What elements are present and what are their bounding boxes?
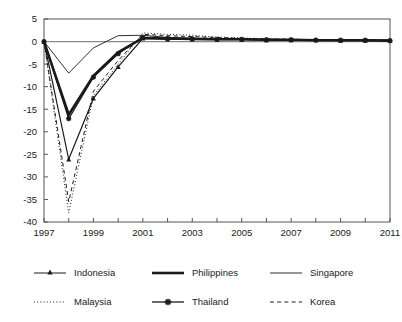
x-axis-tick-labels: 19971999200120032005200720092011 (33, 227, 400, 238)
chart-figure: 50-5-10-15-20-25-30-35-40 19971999200120… (0, 0, 402, 322)
y-tick-label: -15 (23, 104, 37, 115)
x-tick-label: 1997 (33, 227, 54, 238)
legend-item-philippines[interactable]: Philippines (151, 258, 269, 287)
plot-area: 50-5-10-15-20-25-30-35-40 19971999200120… (0, 0, 402, 248)
series-korea (44, 34, 390, 201)
series-indonesia (42, 36, 393, 162)
y-tick-label: 0 (32, 36, 37, 47)
x-tick-label: 2003 (182, 227, 203, 238)
series-malaysia (44, 33, 390, 213)
y-tick-label: -20 (23, 126, 37, 137)
legend-swatch-singapore (269, 267, 303, 279)
legend-label-thailand: Thailand (192, 296, 228, 307)
legend-swatch-thailand (151, 296, 185, 308)
legend-swatch-malaysia (33, 296, 67, 308)
legend-label-korea: Korea (310, 296, 335, 307)
y-tick-label: -25 (23, 149, 37, 160)
x-tick-label: 2007 (281, 227, 302, 238)
legend-item-korea[interactable]: Korea (269, 287, 383, 316)
legend-item-singapore[interactable]: Singapore (269, 258, 383, 287)
x-tick-label: 1999 (83, 227, 104, 238)
legend-item-malaysia[interactable]: Malaysia (33, 287, 151, 316)
data-series-group (41, 33, 392, 213)
y-tick-label: 5 (32, 13, 37, 24)
y-tick-label: -35 (23, 194, 37, 205)
x-tick-label: 2011 (380, 227, 400, 238)
x-tick-label: 2005 (231, 227, 252, 238)
x-tick-label: 2001 (132, 227, 153, 238)
legend-swatch-korea (269, 296, 303, 308)
series-philippines (44, 38, 390, 115)
axis-frame (44, 19, 390, 222)
x-tick-label: 2009 (330, 227, 351, 238)
legend-swatch-philippines (151, 267, 185, 279)
y-tick-label: -10 (23, 81, 37, 92)
y-tick-label: -5 (29, 59, 37, 70)
legend-item-indonesia[interactable]: Indonesia (33, 258, 151, 287)
legend-swatch-indonesia (33, 267, 67, 279)
legend-label-malaysia: Malaysia (74, 296, 112, 307)
chart-legend: Indonesia Philippines Singapore Malaysia (33, 258, 383, 316)
legend-item-thailand[interactable]: Thailand (151, 287, 269, 316)
axis-tick-marks (44, 19, 390, 222)
y-tick-label: -30 (23, 171, 37, 182)
legend-label-philippines: Philippines (192, 267, 238, 278)
y-axis-tick-labels: 50-5-10-15-20-25-30-35-40 (23, 13, 37, 227)
y-tick-label: -40 (23, 216, 37, 227)
line-chart-svg: 50-5-10-15-20-25-30-35-40 19971999200120… (0, 0, 402, 248)
legend-label-indonesia: Indonesia (74, 267, 115, 278)
legend-label-singapore: Singapore (310, 267, 353, 278)
